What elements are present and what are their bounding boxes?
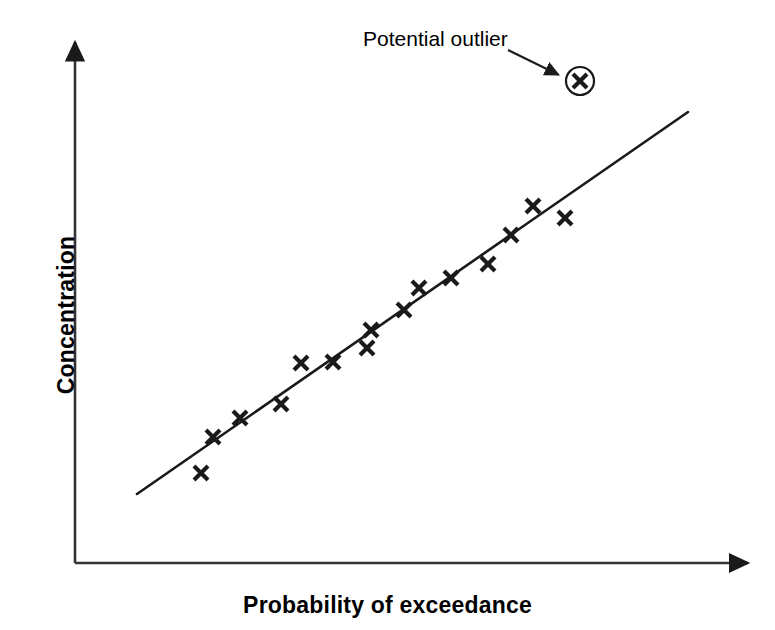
- data-point-marker: [360, 341, 374, 355]
- outlier-marker-group: [566, 67, 594, 95]
- x-axis-title: Probability of exceedance: [0, 592, 775, 619]
- data-point-marker: [364, 323, 378, 337]
- data-point-marker: [397, 303, 411, 317]
- fitted-trend-line: [137, 112, 688, 494]
- annotation-label-potential-outlier: Potential outlier: [363, 27, 508, 51]
- scatter-plot-canvas: [0, 0, 775, 630]
- data-point-marker: [558, 211, 572, 225]
- data-point-marker: [444, 271, 458, 285]
- data-point-marker: [412, 281, 426, 295]
- trend-line: [137, 112, 688, 494]
- data-point-marker: [526, 199, 540, 213]
- data-point-marker: [504, 228, 518, 242]
- data-point-marker: [294, 356, 308, 370]
- data-point-marker: [194, 466, 208, 480]
- annotation-arrow: [508, 50, 559, 75]
- data-point-markers: [194, 199, 572, 480]
- data-point-marker: [481, 257, 495, 271]
- annotation-arrow-line: [508, 50, 559, 75]
- figure-container: Potential outlier Probability of exceeda…: [0, 0, 775, 630]
- y-axis-title: Concentration: [44, 0, 88, 630]
- outlier-data-point-marker: [573, 74, 587, 88]
- data-point-marker: [274, 397, 288, 411]
